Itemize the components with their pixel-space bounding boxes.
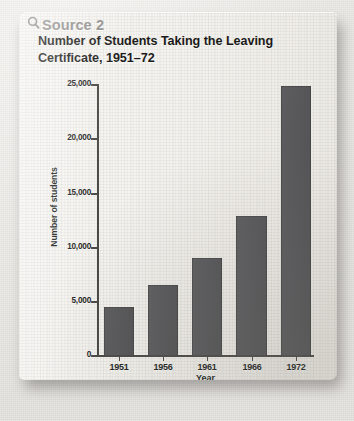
x-tick-label-1966: 1966 <box>230 362 274 372</box>
bar-chart: 25,000 20,000 15,000 10,000 5,000 0 Numb… <box>19 12 337 380</box>
x-tick-1972 <box>296 355 297 361</box>
y-tick-label-5000: 5,000 <box>37 296 91 305</box>
bar-series <box>98 84 314 356</box>
x-tick-label-1956: 1956 <box>141 362 185 372</box>
y-tick-20000 <box>91 138 97 140</box>
bar-1961 <box>192 258 222 356</box>
x-tick-label-1972: 1972 <box>274 362 318 372</box>
y-tick-label-15000: 15,000 <box>37 188 91 197</box>
bar-slot-1951 <box>104 84 134 356</box>
y-tick-0 <box>91 355 97 357</box>
y-axis-title: Number of students <box>49 152 59 262</box>
bar-slot-1961 <box>192 84 222 356</box>
x-tick-1956 <box>163 355 164 361</box>
bar-1956 <box>148 285 178 356</box>
bar-1972 <box>281 86 311 356</box>
x-tick-1961 <box>207 355 208 361</box>
bar-slot-1972 <box>281 84 311 356</box>
x-tick-1951 <box>119 355 120 361</box>
y-tick-label-10000: 10,000 <box>37 242 91 251</box>
bar-1951 <box>104 307 134 356</box>
x-tick-label-1961: 1961 <box>185 362 229 372</box>
y-tick-5000 <box>91 301 97 303</box>
y-tick-label-0: 0 <box>37 350 91 359</box>
x-tick-1966 <box>252 355 253 361</box>
y-tick-label-20000: 20,000 <box>37 133 91 142</box>
y-tick-10000 <box>91 247 97 249</box>
bar-slot-1956 <box>148 84 178 356</box>
bar-slot-1966 <box>236 84 267 356</box>
x-axis-title: Year <box>97 373 314 380</box>
bar-1966 <box>236 216 267 356</box>
x-tick-label-1951: 1951 <box>97 362 141 372</box>
textbook-page: Source 2 Number of Students Taking the L… <box>19 12 337 380</box>
y-tick-15000 <box>91 193 97 195</box>
y-tick-label-25000: 25,000 <box>37 79 91 88</box>
y-tick-25000 <box>91 84 97 86</box>
page-content: Source 2 Number of Students Taking the L… <box>19 12 337 380</box>
